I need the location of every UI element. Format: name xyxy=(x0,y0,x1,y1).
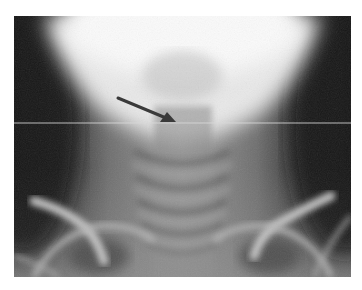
film-grain xyxy=(14,16,351,277)
xray-graphic xyxy=(14,16,351,277)
xray-image xyxy=(14,16,351,277)
